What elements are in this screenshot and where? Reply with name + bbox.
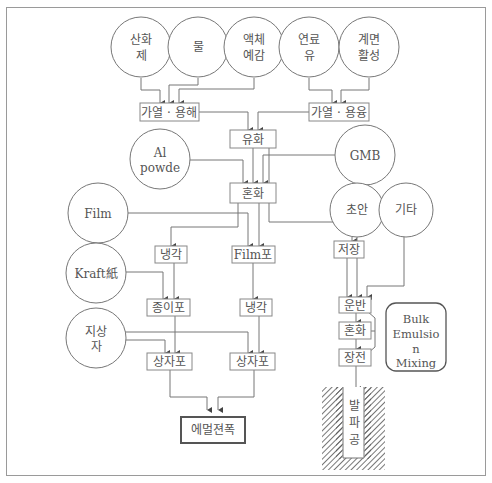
label-box-pack-left: 상자포 — [153, 355, 186, 369]
label-transport: 운반 — [344, 299, 366, 313]
label-fuel-2: 유 — [304, 49, 315, 63]
arrow-fuel-to-heat-melt — [309, 78, 332, 103]
label-bulk-1: Bulk — [403, 312, 431, 326]
label-al-2: powde — [140, 161, 180, 175]
label-bulk-2: Emulsio — [393, 327, 440, 341]
arrow-kraft-to-paper-pack — [126, 272, 163, 299]
label-sensitizer-1: 액체 — [243, 33, 265, 47]
label-box-material-2: 자 — [91, 340, 102, 354]
label-surfactant-2: 활성 — [358, 49, 380, 63]
arrow-box-right-to-product — [218, 370, 254, 410]
circle-liquid-sensitizer — [224, 17, 284, 77]
label-fuel-1: 연료 — [298, 33, 320, 47]
label-heat-dissolve: 가열 · 용해 — [141, 106, 196, 120]
label-ammonium-nitrate: 초안 — [346, 203, 368, 217]
circle-fuel-oil — [279, 17, 339, 77]
label-al-1: Al — [153, 146, 167, 160]
arrow-box-left-to-product — [170, 370, 207, 410]
label-blast-hole-2: 파 — [349, 416, 360, 430]
label-surfactant-1: 계면 — [358, 33, 380, 47]
arrow-film-to-film-pack — [124, 213, 248, 246]
label-oxidizer-1: 산화 — [130, 33, 152, 47]
label-bulk-3: n — [412, 342, 420, 356]
label-bulk-4: Mixing — [396, 356, 437, 370]
label-blast-hole-1: 발 — [349, 399, 360, 413]
label-heat-melt: 가열 · 용융 — [311, 106, 366, 120]
label-other: 기타 — [395, 203, 417, 217]
arrow-boxmat-to-box-pack-left — [124, 340, 165, 353]
label-paper-pack: 종이포 — [152, 301, 185, 315]
arrow-heat-dissolve-to-emulsify — [199, 112, 248, 130]
label-mix-bulk: 혼화 — [344, 324, 366, 338]
label-emulsify: 유화 — [242, 133, 264, 147]
arrow-other-to-transport — [367, 235, 404, 297]
label-product: 에멀젼폭 — [191, 423, 235, 437]
arrow-water-to-heat-dissolve — [169, 78, 198, 103]
circle-surfactant — [339, 17, 399, 77]
label-storage: 저장 — [338, 243, 360, 257]
arrow-mix-to-cool — [171, 203, 238, 246]
label-charge: 장전 — [344, 351, 366, 365]
arrow-al-to-mix — [187, 160, 243, 183]
arrow-surfactant-to-heat-melt — [341, 78, 369, 103]
label-oxidizer-2: 제 — [136, 49, 147, 63]
arrow-boxmat-to-box-pack-right — [124, 332, 248, 353]
arrow-gmb-to-mix — [263, 155, 335, 183]
arrow-oxidizer-to-heat-dissolve — [141, 78, 160, 103]
arrow-heat-melt-to-emulsify — [258, 112, 309, 130]
label-film: Film — [84, 207, 112, 221]
label-mix: 혼화 — [242, 187, 264, 201]
label-film-pack: Film포 — [234, 248, 272, 262]
process-flow-diagram: 산화 제 물 액체 예감 연료 유 계면 활성 Al powde GMB Fil… — [0, 0, 492, 483]
label-sensitizer-2: 예감 — [243, 49, 265, 63]
label-gmb: GMB — [350, 149, 381, 163]
circle-oxidizer — [111, 17, 171, 77]
label-cool-left: 냉각 — [160, 248, 182, 262]
arrow-sensitizer-to-heat-dissolve — [179, 78, 254, 103]
label-box-pack-right: 상자포 — [236, 355, 269, 369]
label-water: 물 — [193, 40, 204, 54]
label-box-material-1: 지상 — [85, 325, 107, 339]
label-cool-mid: 냉각 — [245, 301, 267, 315]
label-kraft: Kraft紙 — [74, 266, 117, 281]
label-blast-hole-3: 공 — [349, 433, 360, 447]
